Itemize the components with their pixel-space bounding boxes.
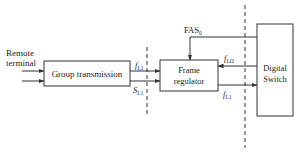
remote-label-line2: terminal [6,58,36,68]
remote-label-line1: Remote [6,48,34,58]
digital-switch-label-line1: Digital [263,63,287,73]
fas0-label: FAS0 [184,25,202,36]
digital-switch-label-line2: Switch [263,74,287,84]
s-l1-left-label: SL1 [133,85,144,96]
frame-regulator-label-line1: Frame [178,65,200,75]
diagram-canvas: Remote terminal Group transmission fL1 S… [0,0,302,154]
f-l1-left-label: fL1 [135,60,144,71]
f-l1-right-label: fL1 [223,89,232,100]
group-transmission-label: Group transmission [52,69,123,79]
frame-regulator-label-line2: regulator [174,76,205,86]
f-lo-label: fLO [224,53,234,64]
